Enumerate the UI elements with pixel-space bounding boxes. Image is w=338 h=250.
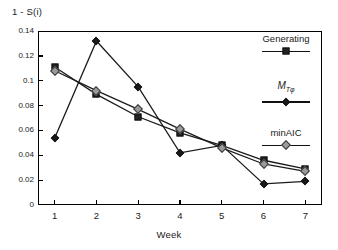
x-tick-mark	[305, 200, 306, 205]
x-tick-label: 5	[210, 211, 234, 221]
legend-marker-sample	[243, 140, 329, 150]
x-tick-mark	[221, 200, 222, 205]
x-tick-label: 1	[43, 211, 67, 221]
legend-entry: Generating	[243, 33, 329, 56]
x-tick-mark	[263, 200, 264, 205]
x-tick-mark	[138, 200, 139, 205]
y-tick-mark	[38, 155, 43, 156]
y-tick-label: 0.04	[0, 151, 34, 159]
x-tick-mark	[54, 200, 55, 205]
x-tick-label: 6	[252, 211, 276, 221]
y-tick-label: 0.12	[0, 52, 34, 60]
y-tick-mark	[38, 55, 43, 56]
legend-label: MTφ	[243, 80, 329, 95]
y-tick-label: 0	[0, 201, 34, 209]
x-tick-mark	[96, 200, 97, 205]
y-tick-label: 0.14	[0, 27, 34, 35]
chart-container: 1 - S(i) 00.020.040.060.080.10.120.14 12…	[0, 0, 338, 250]
y-tick-label: 0.02	[0, 176, 34, 184]
y-tick-mark	[38, 80, 43, 81]
legend-entry: minAIC	[243, 127, 329, 150]
y-tick-label: 0.1	[0, 77, 34, 85]
x-tick-label: 3	[126, 211, 150, 221]
x-tick-mark	[179, 200, 180, 205]
y-tick-mark	[38, 130, 43, 131]
y-tick-label: 0.06	[0, 126, 34, 134]
legend-label: Generating	[243, 33, 329, 44]
y-axis-title: 1 - S(i)	[12, 6, 42, 17]
x-tick-label: 2	[84, 211, 108, 221]
data-point-marker	[135, 113, 142, 120]
x-axis-title: Week	[0, 229, 338, 240]
legend-entry: MTφ	[243, 80, 329, 107]
x-tick-label: 7	[293, 211, 317, 221]
legend-marker-sample	[243, 46, 329, 56]
legend-marker-sample	[243, 97, 329, 107]
plot-area	[38, 31, 322, 205]
y-tick-mark	[38, 105, 43, 106]
legend-label: minAIC	[243, 127, 329, 138]
y-tick-mark	[38, 180, 43, 181]
y-tick-label: 0.08	[0, 102, 34, 110]
x-tick-label: 4	[168, 211, 192, 221]
